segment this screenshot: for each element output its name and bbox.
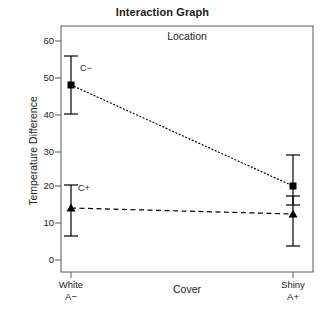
- plot-frame: [61, 26, 313, 272]
- y-axis-ticks: [55, 41, 61, 260]
- interaction-graph-figure: Interaction Graph Location Temperature D…: [0, 0, 325, 316]
- series-line-c-plus: [71, 208, 293, 214]
- series-line-c-minus: [71, 85, 293, 186]
- data-point-c-minus-shiny: [290, 183, 297, 190]
- data-point-c-plus-shiny: [289, 210, 298, 218]
- x-axis-ticks: [71, 272, 293, 278]
- error-bar-c-plus-shiny: [286, 196, 300, 246]
- plot-area: [0, 0, 325, 316]
- data-point-c-minus-white: [68, 82, 75, 89]
